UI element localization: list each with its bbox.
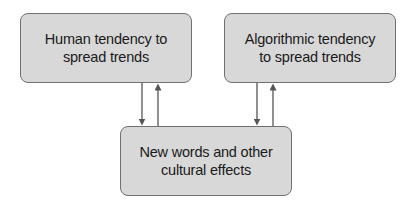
node-human-tendency-label: Human tendency to spread trends bbox=[45, 30, 167, 66]
node-human-tendency: Human tendency to spread trends bbox=[20, 13, 192, 83]
node-algorithmic-tendency-label: Algorithmic tendency to spread trends bbox=[245, 30, 376, 66]
node-new-words-cultural-effects-label: New words and other cultural effects bbox=[139, 143, 272, 179]
node-algorithmic-tendency: Algorithmic tendency to spread trends bbox=[224, 13, 396, 83]
node-new-words-cultural-effects: New words and other cultural effects bbox=[120, 126, 292, 196]
